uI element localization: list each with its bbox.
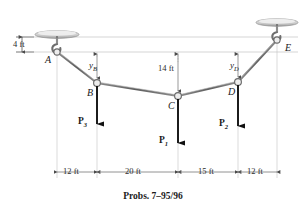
pin-e [274, 37, 280, 43]
cable-segment-de [238, 40, 277, 82]
dim-label-yd: yD [230, 61, 239, 72]
cable-diagram-svg [0, 0, 306, 214]
node-label-c: C [168, 101, 175, 111]
dim-label-span-de: 12 ft [247, 167, 263, 176]
load-label-p1-sub: 1 [165, 140, 168, 147]
dim-label-4ft: 4 ft [13, 40, 25, 49]
support-e-group [256, 19, 298, 43]
node-label-a: A [45, 55, 51, 65]
node-label-e: E [285, 43, 291, 53]
figure-container: A B C D E 4 ft yB 14 ft yD P3 P1 P2 12 f… [0, 0, 306, 214]
pin-a [54, 49, 60, 55]
cable-joints [94, 79, 242, 100]
node-label-d: D [228, 87, 235, 97]
dim-label-span-ab: 12 ft [63, 167, 79, 176]
cable-segment-bc [97, 83, 178, 96]
dim-label-span-cd: 15 ft [198, 167, 214, 176]
joint-d [235, 79, 242, 86]
support-a-group [35, 31, 79, 56]
reference-lines [34, 37, 298, 52]
sag-reference-lines [97, 52, 238, 62]
dim-label-yd-sub: D [234, 65, 239, 72]
load-label-p2: P2 [219, 119, 228, 130]
load-label-p2-sub: 2 [225, 123, 228, 130]
figure-caption: Probs. 7–95/96 [0, 191, 306, 201]
dim-label-span-bc: 20 ft [125, 167, 141, 176]
load-label-p3-sub: 3 [84, 121, 87, 128]
dim-label-yb: yB [89, 61, 97, 72]
node-label-b: B [87, 88, 93, 98]
dim-label-14ft: 14 ft [158, 64, 174, 73]
joint-c [175, 93, 182, 100]
dim-label-yb-sub: B [93, 65, 97, 72]
joint-b [94, 80, 101, 87]
load-label-p3: P3 [78, 117, 87, 128]
load-label-p1: P1 [159, 136, 168, 147]
